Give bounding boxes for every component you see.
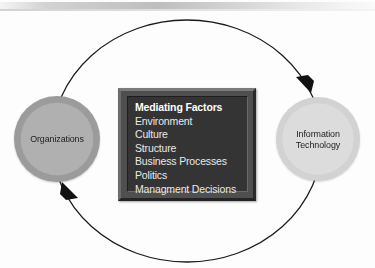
- node-information-technology-inner: Information Technology: [282, 103, 353, 174]
- node-organizations-label: Organizations: [30, 134, 84, 145]
- arrow-to-organizations-icon: [60, 182, 78, 200]
- factor-item-management-decisions: Managment Decisions: [135, 183, 247, 197]
- factor-item-culture: Culture: [135, 128, 247, 142]
- factor-item-environment: Environment: [135, 115, 247, 129]
- mediating-factors-heading: Mediating Factors: [135, 101, 247, 115]
- node-organizations[interactable]: Organizations: [14, 96, 100, 182]
- factor-item-structure: Structure: [135, 142, 247, 156]
- node-information-technology[interactable]: Information Technology: [276, 97, 360, 181]
- mediating-factors-panel: Mediating Factors Environment Culture St…: [127, 96, 248, 192]
- diagram-canvas: Organizations Information Technology Med…: [0, 0, 375, 268]
- factor-item-business-processes: Business Processes: [135, 155, 247, 169]
- factor-item-politics: Politics: [135, 169, 247, 183]
- node-organizations-inner: Organizations: [21, 103, 94, 176]
- node-information-technology-label: Information Technology: [296, 128, 340, 149]
- arrow-to-information-technology-icon: [296, 75, 314, 93]
- mediating-factors-box: Mediating Factors Environment Culture St…: [118, 88, 256, 201]
